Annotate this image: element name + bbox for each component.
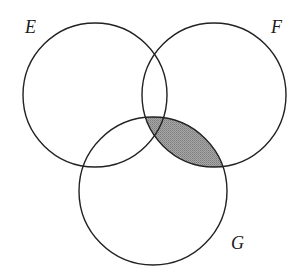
set-e-label: E: [24, 17, 36, 37]
shaded-region-f-intersect-g: [79, 117, 227, 265]
venn-diagram: E F G: [0, 0, 296, 275]
set-g-label: G: [231, 233, 244, 253]
set-f-label: F: [270, 17, 283, 37]
